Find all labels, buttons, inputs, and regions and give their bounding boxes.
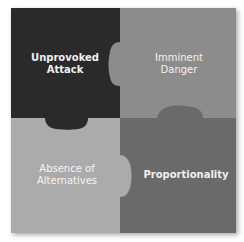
puzzle-diagram: Unprovoked Attack Imminent Danger Absenc… [0, 0, 244, 242]
puzzle-graphic [0, 0, 244, 242]
label-unprovoked-attack: Unprovoked Attack [31, 52, 99, 76]
label-proportionality: Proportionality [143, 169, 228, 181]
label-absence-of-alternatives: Absence of Alternatives [37, 163, 97, 187]
label-imminent-danger: Imminent Danger [155, 52, 203, 76]
